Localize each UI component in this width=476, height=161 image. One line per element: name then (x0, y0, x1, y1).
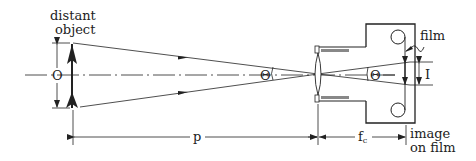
angle-object-label: Θ (260, 68, 271, 83)
angle-image-label: Θ (370, 68, 381, 83)
object-label: object (55, 22, 96, 37)
camera-optics-diagram: O distant object Θ Θ film I (0, 0, 476, 161)
image-size-label: I (425, 67, 430, 82)
film-spool-top-icon (391, 30, 405, 44)
ray-image-bottom (318, 74, 410, 85)
on-film-label: on film (410, 140, 456, 155)
object-size-label: O (52, 68, 63, 83)
angle-image-arc (367, 67, 368, 81)
image-label: image (410, 126, 451, 141)
distant-label: distant (50, 8, 96, 23)
ray-bottom (80, 74, 318, 107)
distance-p-label: p (193, 129, 201, 144)
ray-image-top (318, 62, 410, 74)
ray-top (73, 43, 318, 74)
focal-length-label: fc (358, 129, 368, 145)
film-spool-bottom-icon (391, 103, 405, 117)
film-label: film (420, 28, 445, 43)
object-arrow-icon (66, 44, 78, 108)
ray-bottom-arrow-icon (178, 91, 188, 95)
angle-object-arc (272, 67, 274, 80)
lens-icon (315, 46, 321, 102)
fc-arrow-left-icon (319, 135, 326, 140)
